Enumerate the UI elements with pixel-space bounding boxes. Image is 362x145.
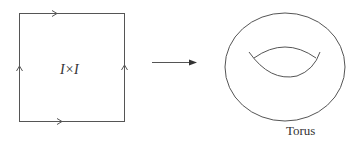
torus-hole-top: [254, 47, 316, 58]
diagram: I×I Torus: [0, 0, 362, 145]
square-label: I×I: [60, 62, 79, 78]
torus-label: Torus: [286, 123, 315, 139]
torus-hole-bottom: [249, 52, 320, 77]
arrow-head-icon: [189, 60, 197, 66]
torus-outline: [225, 13, 345, 121]
